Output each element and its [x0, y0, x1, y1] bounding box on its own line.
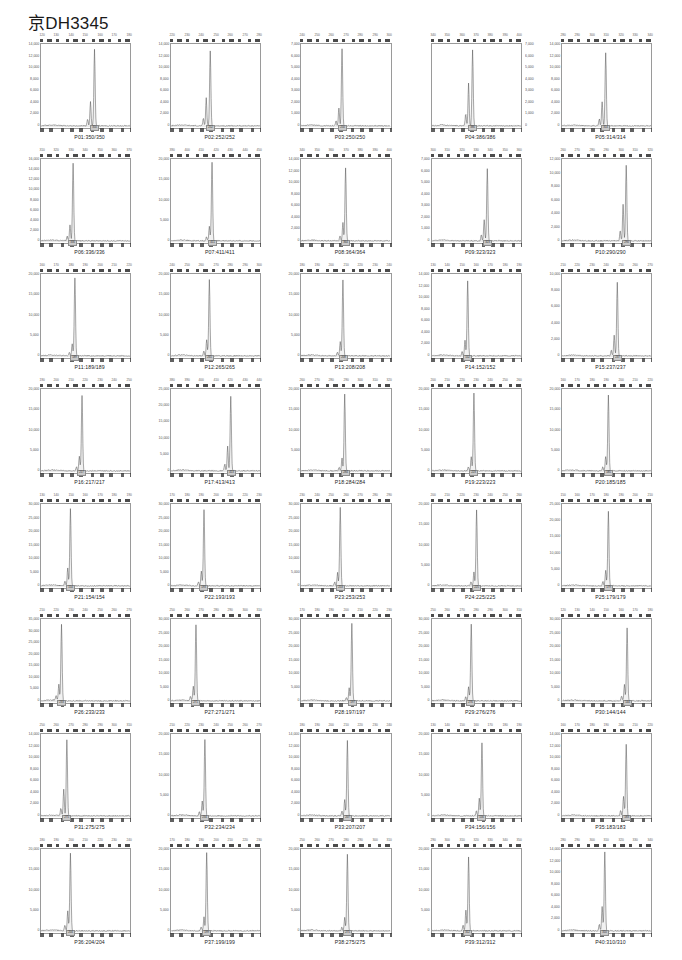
allele-call-box[interactable]: 152: [463, 355, 472, 361]
allele-call-box[interactable]: 237: [613, 355, 622, 361]
allele-call-box[interactable]: 350: [90, 125, 99, 131]
allele-call-box[interactable]: 275: [62, 815, 71, 821]
trace-panel[interactable]: 23024025026027028029030,00025,00020,0001…: [286, 493, 413, 608]
trace-panel[interactable]: 25026027028029030031020,00015,00010,0005…: [286, 838, 413, 953]
trace-plot-area[interactable]: [300, 848, 391, 934]
trace-plot-area[interactable]: [431, 158, 522, 244]
allele-call-box[interactable]: 144: [623, 700, 632, 706]
trace-plot-area[interactable]: [431, 848, 522, 934]
trace-panel[interactable]: 13014015016017018019020,00015,00010,0005…: [417, 723, 544, 838]
allele-call-box[interactable]: 386: [468, 125, 477, 131]
allele-call-box[interactable]: 413: [227, 470, 236, 476]
allele-call-box[interactable]: 154: [66, 585, 75, 591]
trace-plot-area[interactable]: [170, 273, 261, 359]
trace-panel[interactable]: 21022023024025026027035,00030,00025,0002…: [26, 608, 153, 723]
trace-panel[interactable]: 26027028029030031032012,00010,0008,0006,…: [547, 148, 674, 263]
trace-plot-area[interactable]: [431, 388, 522, 474]
trace-panel[interactable]: 17018019020021022023030,00025,00020,0001…: [156, 493, 283, 608]
trace-plot-area[interactable]: [561, 618, 652, 704]
trace-panel[interactable]: 25026027028029030031014,00012,00010,0008…: [26, 723, 153, 838]
trace-plot-area[interactable]: [40, 848, 131, 934]
trace-plot-area[interactable]: [431, 503, 522, 589]
trace-plot-area[interactable]: [431, 618, 522, 704]
trace-plot-area[interactable]: [170, 158, 261, 244]
allele-call-box[interactable]: 208: [339, 355, 348, 361]
trace-plot-area[interactable]: [300, 503, 391, 589]
allele-call-box[interactable]: 234: [200, 815, 209, 821]
trace-panel[interactable]: 13014015016017018019014,00012,00010,0008…: [417, 263, 544, 378]
trace-panel[interactable]: 16017018019020021022020,00015,00010,0005…: [26, 263, 153, 378]
trace-plot-area[interactable]: [170, 43, 261, 129]
trace-panel[interactable]: 28029030031032033034014,00012,00010,0008…: [547, 838, 674, 953]
trace-plot-area[interactable]: [561, 158, 652, 244]
trace-panel[interactable]: 34035036037038039040014,00012,00010,0008…: [286, 148, 413, 263]
trace-plot-area[interactable]: [561, 848, 652, 934]
trace-plot-area[interactable]: [300, 388, 391, 474]
allele-call-box[interactable]: 197: [348, 700, 357, 706]
trace-plot-area[interactable]: [431, 43, 522, 129]
allele-call-box[interactable]: 314: [601, 125, 610, 131]
trace-plot-area[interactable]: [170, 848, 261, 934]
trace-plot-area[interactable]: [40, 388, 131, 474]
allele-call-box[interactable]: 225: [472, 585, 481, 591]
trace-plot-area[interactable]: [431, 273, 522, 359]
trace-plot-area[interactable]: [170, 733, 261, 819]
trace-plot-area[interactable]: [561, 273, 652, 359]
allele-call-box[interactable]: 183: [622, 815, 631, 821]
trace-panel[interactable]: 17018019020021022023020,00015,00010,0005…: [156, 838, 283, 953]
trace-plot-area[interactable]: [40, 503, 131, 589]
trace-panel[interactable]: 18019020021022023024020,00015,00010,0005…: [26, 838, 153, 953]
trace-panel[interactable]: 39040041042043044045020,00015,00010,0005…: [156, 148, 283, 263]
trace-panel[interactable]: 26027028029030031032020,00015,00010,0005…: [286, 378, 413, 493]
trace-plot-area[interactable]: [300, 733, 391, 819]
trace-panel[interactable]: 13014015016017018019030,00025,00020,0001…: [26, 493, 153, 608]
trace-panel[interactable]: 21022023024025026027020,00015,00010,0005…: [156, 723, 283, 838]
trace-panel[interactable]: 20021022023024025026020,00015,00010,0005…: [417, 493, 544, 608]
trace-panel[interactable]: 17018019020021022023030,00025,00020,0001…: [286, 608, 413, 723]
trace-panel[interactable]: 24025026027028029030020,00015,00010,0005…: [156, 263, 283, 378]
trace-plot-area[interactable]: [561, 388, 652, 474]
trace-panel[interactable]: 16017018019020021022020,00015,00010,0005…: [547, 378, 674, 493]
allele-call-box[interactable]: 185: [604, 470, 613, 476]
trace-panel[interactable]: 12013014015016017018030,00025,00020,0001…: [547, 608, 674, 723]
trace-plot-area[interactable]: [40, 733, 131, 819]
allele-call-box[interactable]: 250: [338, 125, 347, 131]
allele-call-box[interactable]: 323: [483, 240, 492, 246]
allele-call-box[interactable]: 253: [336, 585, 345, 591]
allele-call-box[interactable]: 336: [68, 240, 77, 246]
allele-call-box[interactable]: 199: [202, 930, 211, 936]
allele-call-box[interactable]: 193: [199, 585, 208, 591]
allele-call-box[interactable]: 275: [343, 930, 352, 936]
trace-plot-area[interactable]: [300, 43, 391, 129]
trace-plot-area[interactable]: [300, 618, 391, 704]
allele-call-box[interactable]: 411: [208, 240, 217, 246]
trace-panel[interactable]: 20021022023024025026020,00015,00010,0005…: [417, 378, 544, 493]
trace-plot-area[interactable]: [40, 273, 131, 359]
trace-panel[interactable]: 12013014015016017018014,00012,00010,0008…: [26, 33, 153, 148]
trace-panel[interactable]: 22023024025026027028014,00012,00010,0008…: [156, 33, 283, 148]
trace-plot-area[interactable]: [40, 618, 131, 704]
allele-call-box[interactable]: 223: [469, 470, 478, 476]
trace-panel[interactable]: 3403503603703803904007,0006,0005,0004,00…: [417, 33, 544, 148]
trace-plot-area[interactable]: [561, 733, 652, 819]
allele-call-box[interactable]: 233: [57, 700, 66, 706]
trace-plot-area[interactable]: [300, 273, 391, 359]
allele-call-box[interactable]: 364: [341, 240, 350, 246]
allele-call-box[interactable]: 265: [205, 355, 214, 361]
allele-call-box[interactable]: 217: [77, 470, 86, 476]
trace-panel[interactable]: 31032033034035036037016,00014,00012,0001…: [26, 148, 153, 263]
trace-plot-area[interactable]: [561, 503, 652, 589]
trace-panel[interactable]: 29030031032033034035020,00015,00010,0005…: [417, 838, 544, 953]
allele-call-box[interactable]: 204: [66, 930, 75, 936]
allele-call-box[interactable]: 312: [463, 930, 472, 936]
allele-call-box[interactable]: 179: [604, 585, 613, 591]
trace-plot-area[interactable]: [170, 503, 261, 589]
trace-plot-area[interactable]: [300, 158, 391, 244]
trace-panel[interactable]: 3003103203303403503607,0006,0005,0004,00…: [417, 148, 544, 263]
allele-call-box[interactable]: 290: [622, 240, 631, 246]
trace-panel[interactable]: 25026027028029030031030,00025,00020,0001…: [156, 608, 283, 723]
trace-panel[interactable]: 19020021022023024025020,00015,00010,0005…: [26, 378, 153, 493]
allele-call-box[interactable]: 284: [341, 470, 350, 476]
trace-panel[interactable]: 38039040041042043044025,00020,00015,0001…: [156, 378, 283, 493]
allele-call-box[interactable]: 156: [477, 815, 486, 821]
